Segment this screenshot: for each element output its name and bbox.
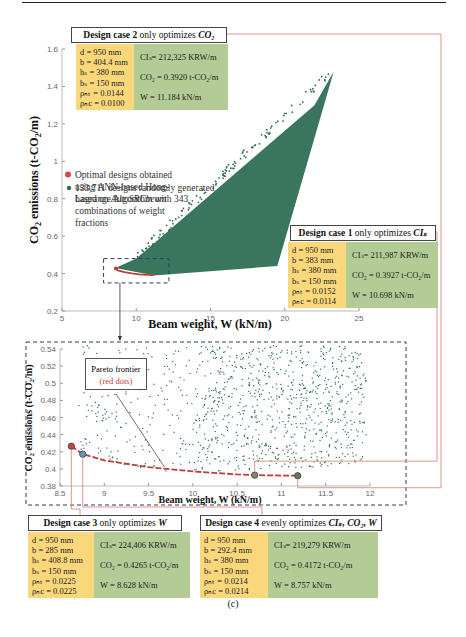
scatter-point [199, 353, 200, 354]
scatter-point [273, 367, 274, 368]
scatter-point [253, 459, 254, 460]
scatter-point [345, 360, 346, 361]
scatter-point [343, 414, 344, 415]
inset-ylabel: CO2 emissions (t-CO2/m) [23, 364, 36, 471]
zoom-arrowhead [118, 336, 122, 341]
scatter-point [214, 414, 215, 415]
scatter-point [136, 349, 137, 350]
scatter-point [204, 416, 205, 417]
scatter-point [224, 389, 225, 390]
scatter-point [359, 366, 360, 367]
scatter-point [223, 374, 224, 375]
scatter-point [288, 421, 289, 422]
scatter-point [325, 411, 326, 412]
scatter-point [213, 397, 214, 398]
scatter-point [287, 399, 288, 400]
scatter-point [246, 151, 248, 153]
scatter-point [248, 363, 249, 364]
scatter-point [250, 373, 251, 374]
scatter-point [355, 385, 356, 386]
scatter-point [362, 394, 363, 395]
scatter-point [344, 417, 345, 418]
scatter-point [280, 384, 281, 385]
scatter-point [330, 348, 331, 349]
scatter-point [225, 386, 226, 387]
scatter-point [158, 395, 159, 396]
scatter-point [199, 427, 200, 428]
scatter-point [205, 438, 206, 439]
scatter-point [270, 448, 271, 449]
scatter-point [363, 375, 364, 376]
scatter-point [210, 395, 211, 396]
scatter-point [231, 444, 232, 445]
scatter-point [327, 408, 328, 409]
scatter-point [219, 391, 220, 392]
scatter-point [140, 254, 142, 256]
main-xtick-label: 10 [132, 314, 141, 323]
scatter-point [218, 406, 219, 407]
scatter-point [305, 423, 306, 424]
scatter-point [222, 361, 223, 362]
scatter-point [172, 220, 174, 222]
scatter-point [208, 440, 209, 441]
scatter-point [279, 357, 280, 358]
scatter-point [222, 443, 223, 444]
scatter-point [311, 457, 312, 458]
scatter-point [104, 409, 105, 410]
scatter-point [84, 352, 85, 353]
scatter-point [359, 413, 360, 414]
scatter-point [268, 450, 269, 451]
scatter-point [316, 456, 317, 457]
scatter-point [309, 430, 310, 431]
scatter-point [290, 395, 291, 396]
scatter-point [308, 415, 309, 416]
scatter-point [220, 461, 221, 462]
scatter-point [222, 388, 223, 389]
scatter-point [362, 431, 363, 432]
scatter-point [181, 210, 183, 212]
scatter-point [101, 438, 102, 439]
scatter-point [178, 217, 180, 219]
scatter-point [120, 427, 121, 428]
scatter-point [183, 440, 184, 441]
scatter-point [155, 405, 156, 406]
scatter-point [305, 91, 307, 93]
scatter-point [300, 360, 301, 361]
scatter-point [323, 347, 324, 348]
scatter-point [203, 419, 204, 420]
scatter-point [219, 374, 220, 375]
scatter-point [251, 395, 252, 396]
scatter-point [259, 421, 260, 422]
scatter-point [346, 376, 347, 377]
scatter-point [215, 358, 216, 359]
scatter-point [249, 385, 250, 386]
scatter-point [288, 414, 289, 415]
scatter-point [353, 456, 354, 457]
scatter-point [296, 427, 297, 428]
scatter-point [199, 418, 200, 419]
scatter-point [304, 388, 305, 389]
scatter-point [300, 423, 301, 424]
scatter-point [229, 396, 230, 397]
scatter-point [335, 441, 336, 442]
scatter-point [332, 363, 333, 364]
scatter-point [108, 395, 109, 396]
scatter-point [197, 368, 198, 369]
scatter-point [228, 164, 230, 166]
scatter-point [268, 445, 269, 446]
case2-results: CIₛ= 212,325 KRW/mCO₂ = 0.3920 t-CO₂/mW … [134, 44, 228, 110]
scatter-point [365, 380, 366, 381]
scatter-point [236, 357, 237, 358]
scatter-point [213, 411, 214, 412]
scatter-point [360, 459, 361, 460]
pareto-annotation: Pareto frontier (red dots) [85, 358, 147, 390]
scatter-point [260, 364, 261, 365]
scatter-point [164, 373, 165, 374]
case4-title: Design case 4 evenly optimizes CIₛ, CO₂,… [200, 515, 382, 531]
scatter-point [170, 227, 172, 229]
scatter-point [259, 447, 260, 448]
scatter-point [212, 451, 213, 452]
scatter-point [357, 367, 358, 368]
scatter-point [335, 421, 336, 422]
scatter-point [365, 378, 366, 379]
